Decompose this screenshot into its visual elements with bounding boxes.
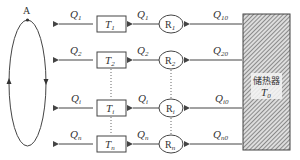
out-flow-label: Q1 bbox=[70, 8, 81, 22]
point-a-label: A bbox=[23, 5, 31, 16]
in-flow-label: Q10 bbox=[213, 8, 228, 22]
mid-flow-label: Q1 bbox=[137, 8, 148, 22]
point-a-dot bbox=[26, 18, 29, 21]
out-flow-label: Qn bbox=[70, 128, 82, 142]
row-1: Q1 T1 Q1 R1 Q10 bbox=[59, 8, 242, 33]
mid-flow-label: Qi bbox=[138, 92, 148, 106]
mid-flow-label: Qn bbox=[137, 128, 149, 142]
storage-label: 储热器 bbox=[253, 75, 280, 86]
in-flow-label: Qi0 bbox=[215, 92, 229, 106]
mid-flow-label: Q2 bbox=[137, 44, 149, 58]
in-flow-label: Qn0 bbox=[213, 128, 228, 142]
out-flow-label: Q2 bbox=[70, 44, 82, 58]
down-arrow-icon bbox=[44, 79, 49, 85]
row-i: Qi Ti Qi Ri Qi0 bbox=[59, 92, 242, 117]
circulation-loop: A bbox=[7, 5, 49, 146]
out-flow-label: Qi bbox=[71, 92, 81, 106]
in-flow-label: Q20 bbox=[213, 44, 228, 58]
heat-storage-unit: 储热器 T0 bbox=[243, 14, 290, 150]
row-n: Qn Tn Qn Rn Qn0 bbox=[59, 128, 242, 153]
up-arrow-icon bbox=[7, 78, 12, 84]
row-2: Q2 T2 Q2 R2 Q20 bbox=[59, 44, 242, 69]
heat-storage-diagram: A Q1 T1 Q1 R1 Q10 Q2 T2 Q2 R2 Q20 Qi bbox=[0, 0, 300, 160]
